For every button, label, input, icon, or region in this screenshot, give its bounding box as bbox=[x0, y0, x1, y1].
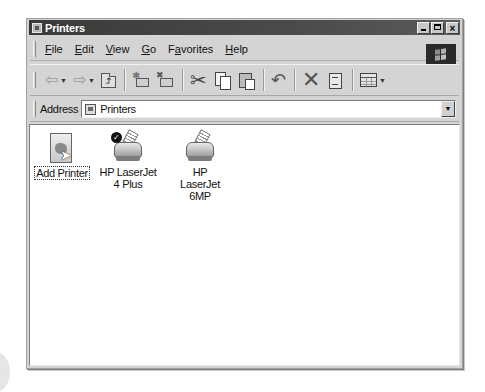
forward-arrow-icon: ⇨ bbox=[73, 72, 86, 88]
menu-favorites-rest: vorites bbox=[181, 43, 213, 55]
address-bar: Address Printers ▼ bbox=[30, 97, 459, 122]
undo-button[interactable]: ↶ bbox=[271, 68, 286, 92]
undo-icon: ↶ bbox=[271, 71, 286, 89]
menu-go-accel: G bbox=[141, 43, 150, 55]
default-printer-check-icon: ✓ bbox=[111, 132, 122, 143]
window-controls: × bbox=[417, 22, 459, 34]
copy-to-button[interactable] bbox=[156, 68, 174, 92]
add-printer-icon: ➤ bbox=[50, 133, 74, 163]
folder-content-view[interactable]: ➤ Add Printer ✓ HP LaserJet 4 Plus HP La… bbox=[29, 124, 460, 366]
menu-help[interactable]: Help bbox=[225, 43, 248, 55]
menubar-grip[interactable] bbox=[33, 41, 36, 57]
item-hp-laserjet-6mp[interactable]: HP LaserJet 6MP bbox=[164, 131, 236, 202]
views-dropdown-icon[interactable]: ▼ bbox=[379, 77, 386, 84]
copy-button[interactable] bbox=[213, 68, 231, 92]
menu-file[interactable]: File bbox=[45, 43, 63, 55]
windows-logo bbox=[426, 44, 456, 64]
menu-help-rest: elp bbox=[233, 43, 248, 55]
menu-edit-rest: dit bbox=[82, 43, 94, 55]
menu-view[interactable]: View bbox=[106, 43, 130, 55]
cut-button[interactable]: ✂ bbox=[190, 68, 207, 92]
properties-button[interactable] bbox=[326, 68, 344, 92]
menu-edit-accel: E bbox=[75, 43, 82, 55]
item-label: HP LaserJet 6MP bbox=[173, 166, 227, 202]
item-hp-laserjet-4-plus[interactable]: ✓ HP LaserJet 4 Plus bbox=[92, 131, 164, 190]
move-to-button[interactable] bbox=[132, 68, 150, 92]
close-icon: × bbox=[447, 24, 458, 33]
menu-go[interactable]: Go bbox=[141, 43, 156, 55]
printers-folder-icon bbox=[32, 23, 42, 33]
copy-icon bbox=[213, 71, 231, 89]
copy-to-icon bbox=[156, 72, 174, 88]
address-value: Printers bbox=[100, 103, 136, 115]
menu-view-accel: V bbox=[106, 43, 113, 55]
forward-button[interactable]: ⇨ ▼ bbox=[73, 68, 95, 92]
minimize-button[interactable] bbox=[417, 22, 430, 34]
menu-view-rest: iew bbox=[113, 43, 130, 55]
menu-favorites[interactable]: Favorites bbox=[168, 43, 213, 55]
toolbar-separator bbox=[182, 69, 184, 91]
move-to-icon bbox=[132, 72, 150, 88]
toolbar-separator bbox=[124, 69, 126, 91]
minimize-icon bbox=[421, 29, 426, 31]
addressbar-grip[interactable] bbox=[33, 101, 36, 117]
title-bar[interactable]: Printers × bbox=[29, 20, 460, 35]
delete-icon: ✕ bbox=[302, 70, 320, 90]
address-label: Address bbox=[40, 103, 78, 115]
menu-edit[interactable]: Edit bbox=[75, 43, 94, 55]
address-input[interactable]: Printers ▼ bbox=[81, 100, 456, 118]
printer-icon bbox=[183, 131, 217, 163]
toolbar-grip[interactable] bbox=[33, 72, 36, 88]
menu-favorites-pre: F bbox=[168, 43, 175, 55]
item-label: HP LaserJet 4 Plus bbox=[96, 166, 160, 190]
up-folder-icon bbox=[101, 76, 116, 88]
forward-dropdown-icon[interactable]: ▼ bbox=[88, 77, 95, 84]
up-button[interactable] bbox=[101, 68, 116, 92]
standard-toolbar: ⇦ ▼ ⇨ ▼ ✂ ↶ ✕ ▼ bbox=[30, 64, 459, 96]
views-icon bbox=[360, 73, 377, 87]
window-title: Printers bbox=[45, 22, 85, 34]
delete-button[interactable]: ✕ bbox=[302, 68, 320, 92]
scissors-icon: ✂ bbox=[190, 70, 207, 90]
maximize-icon bbox=[434, 24, 441, 30]
menu-go-rest: o bbox=[150, 43, 156, 55]
toolbar-separator bbox=[352, 69, 354, 91]
pointer-cursor-icon: ➤ bbox=[60, 147, 72, 163]
menu-file-accel: F bbox=[45, 43, 52, 55]
decorative-circle bbox=[0, 352, 10, 392]
item-label: Add Printer bbox=[34, 166, 90, 180]
paste-icon bbox=[237, 71, 255, 89]
address-dropdown-button[interactable]: ▼ bbox=[441, 101, 455, 117]
back-dropdown-icon[interactable]: ▼ bbox=[60, 77, 67, 84]
views-button[interactable]: ▼ bbox=[360, 68, 386, 92]
toolbar-separator bbox=[294, 69, 296, 91]
maximize-button[interactable] bbox=[431, 22, 444, 34]
properties-icon bbox=[326, 71, 344, 89]
toolbar-separator bbox=[263, 69, 265, 91]
close-button[interactable]: × bbox=[446, 22, 459, 34]
menu-bar: File Edit View Go Favorites Help bbox=[30, 38, 459, 61]
printers-window: Printers × File Edit View Go Favorites H… bbox=[26, 18, 463, 369]
menu-file-rest: ile bbox=[52, 43, 63, 55]
back-button[interactable]: ⇦ ▼ bbox=[45, 68, 67, 92]
printer-base bbox=[116, 156, 140, 161]
printers-folder-icon bbox=[85, 104, 96, 115]
printer-icon: ✓ bbox=[111, 131, 145, 163]
windows-flag-icon bbox=[435, 48, 447, 61]
paste-button[interactable] bbox=[237, 68, 255, 92]
printer-base bbox=[188, 156, 212, 161]
item-add-printer[interactable]: ➤ Add Printer bbox=[26, 131, 98, 180]
back-arrow-icon: ⇦ bbox=[45, 72, 58, 88]
